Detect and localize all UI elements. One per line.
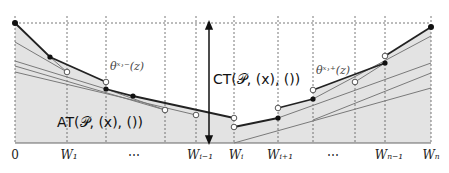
x-tick-ellipsis-right: ⋯ bbox=[327, 148, 339, 162]
filled-point bbox=[103, 86, 108, 91]
open-point bbox=[352, 79, 358, 85]
open-point bbox=[193, 112, 199, 118]
x-tick-ellipsis-left: ⋯ bbox=[128, 148, 140, 162]
x-tick-wn-minus-1: Wₙ₋₁ bbox=[375, 148, 403, 162]
ct-label: CT(𝒫, (x), ()) bbox=[213, 71, 300, 88]
open-point bbox=[64, 69, 70, 75]
x-tick-wn: Wₙ bbox=[422, 148, 439, 162]
open-point bbox=[162, 107, 168, 113]
open-point bbox=[310, 87, 316, 93]
theta-minus-label: θˣ˒⁻(z) bbox=[110, 60, 144, 73]
filled-point bbox=[310, 96, 315, 101]
open-point bbox=[275, 105, 281, 111]
open-point bbox=[231, 124, 237, 130]
filled-point bbox=[47, 54, 52, 59]
theta-plus-label: θˣ˒⁺(z) bbox=[316, 64, 350, 77]
open-point bbox=[103, 79, 109, 85]
filled-point bbox=[428, 24, 434, 30]
x-tick-wi-minus-1: Wᵢ₋₁ bbox=[187, 148, 213, 162]
x-tick-0: 0 bbox=[11, 148, 19, 162]
at-label: AT(𝒫, (x), ()) bbox=[57, 114, 143, 131]
x-tick-wi-plus-1: Wᵢ₊₁ bbox=[267, 148, 293, 162]
filled-point bbox=[275, 115, 280, 120]
open-point bbox=[231, 115, 237, 121]
filled-point bbox=[382, 60, 387, 65]
x-tick-wi: Wᵢ bbox=[229, 148, 244, 162]
x-tick-w1: W₁ bbox=[60, 148, 77, 162]
open-point bbox=[382, 53, 388, 59]
filled-point bbox=[12, 20, 18, 26]
filled-point bbox=[130, 93, 135, 98]
